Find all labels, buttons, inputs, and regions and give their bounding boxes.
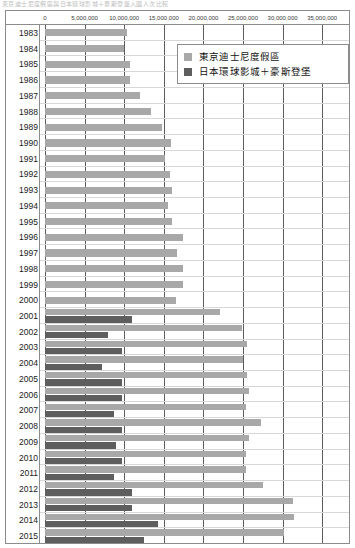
year-axis-label: 1987: [6, 92, 38, 101]
bar-tokyo-disney-resort: [45, 341, 247, 347]
bar-usj-huis-ten-bosch: [45, 332, 108, 338]
row-separator: [40, 480, 349, 481]
year-axis-label: 2008: [6, 422, 38, 431]
bar-usj-huis-ten-bosch: [45, 411, 114, 417]
bar-tokyo-disney-resort: [45, 297, 176, 304]
year-axis-label: 1994: [6, 202, 38, 211]
year-axis-label: 2003: [6, 343, 38, 352]
bar-usj-huis-ten-bosch: [45, 427, 122, 433]
legend-item-usj_huis_ten_bosch: 日本環球影城＋豪斯登堡: [184, 64, 342, 79]
legend-item-tokyo_disney_resort: 東京迪士尼度假區: [184, 49, 342, 64]
bar-usj-huis-ten-bosch: [45, 521, 158, 527]
bar-usj-huis-ten-bosch: [45, 395, 122, 401]
row-separator: [40, 339, 349, 340]
bar-tokyo-disney-resort: [45, 498, 293, 504]
bar-tokyo-disney-resort: [45, 281, 183, 288]
bar-tokyo-disney-resort: [45, 309, 220, 315]
bar-usj-huis-ten-bosch: [45, 442, 116, 448]
year-axis-label: 1990: [6, 139, 38, 148]
bar-tokyo-disney-resort: [45, 388, 249, 394]
bar-usj-huis-ten-bosch: [45, 316, 132, 322]
x-axis-tick-label: 35,000,000: [307, 13, 337, 23]
bar-usj-huis-ten-bosch: [45, 505, 132, 511]
year-axis-label: 1988: [6, 108, 38, 117]
bar-tokyo-disney-resort: [45, 325, 242, 331]
bar-tokyo-disney-resort: [45, 92, 140, 99]
row-separator: [40, 118, 349, 119]
year-axis-label: 1992: [6, 170, 38, 179]
legend-label: 日本環球影城＋豪斯登堡: [199, 67, 311, 77]
row-separator: [40, 103, 349, 104]
year-axis-column: 1983198419851986198719881989199019911992…: [6, 25, 40, 543]
year-axis-label: 2004: [6, 359, 38, 368]
row-separator: [40, 307, 349, 308]
bar-usj-huis-ten-bosch: [45, 537, 144, 543]
bar-tokyo-disney-resort: [45, 451, 246, 457]
bar-usj-huis-ten-bosch: [45, 364, 102, 370]
year-axis-label: 2002: [6, 328, 38, 337]
bar-tokyo-disney-resort: [45, 61, 130, 68]
bar-tokyo-disney-resort: [45, 234, 183, 241]
chart-frame: 05,000,00010,000,00015,000,00020,000,000…: [5, 10, 350, 544]
row-separator: [40, 449, 349, 450]
year-axis-label: 1996: [6, 233, 38, 242]
legend-label: 東京迪士尼度假區: [199, 52, 281, 62]
row-separator: [40, 386, 349, 387]
year-axis-label: 1985: [6, 60, 38, 69]
bar-tokyo-disney-resort: [45, 435, 249, 441]
x-axis-tick-label: 30,000,000: [268, 13, 298, 23]
legend-swatch-icon: [184, 53, 192, 61]
bar-usj-huis-ten-bosch: [45, 379, 122, 385]
year-axis-label: 2010: [6, 454, 38, 463]
year-axis-label: 2009: [6, 438, 38, 447]
bar-tokyo-disney-resort: [45, 202, 168, 209]
year-axis-label: 1991: [6, 155, 38, 164]
year-axis-label: 2014: [6, 516, 38, 525]
row-separator: [40, 213, 349, 214]
bar-tokyo-disney-resort: [45, 265, 183, 272]
bar-tokyo-disney-resort: [45, 356, 243, 362]
bar-tokyo-disney-resort: [45, 482, 263, 488]
row-separator: [40, 291, 349, 292]
row-separator: [40, 87, 349, 88]
row-separator: [40, 417, 349, 418]
row-separator: [40, 323, 349, 324]
row-separator: [40, 181, 349, 182]
year-axis-label: 2001: [6, 312, 38, 321]
bar-tokyo-disney-resort: [45, 404, 246, 410]
bar-usj-huis-ten-bosch: [45, 458, 122, 464]
bar-tokyo-disney-resort: [45, 218, 172, 225]
row-separator: [40, 228, 349, 229]
bar-usj-huis-ten-bosch: [45, 489, 132, 495]
bar-tokyo-disney-resort: [45, 108, 151, 115]
row-separator: [40, 244, 349, 245]
chart-legend: 東京迪士尼度假區日本環球影城＋豪斯登堡: [177, 44, 349, 84]
x-axis-tick-label: 15,000,000: [149, 13, 179, 23]
year-axis-label: 2015: [6, 532, 38, 541]
row-separator: [40, 197, 349, 198]
bar-tokyo-disney-resort: [45, 529, 284, 535]
row-separator: [40, 260, 349, 261]
chart-page: 東京迪士尼度假區與日本環球影城＋豪斯登堡入園人次比較 05,000,00010,…: [0, 0, 355, 548]
year-axis-label: 1998: [6, 265, 38, 274]
bar-tokyo-disney-resort: [45, 171, 170, 178]
year-axis-label: 1984: [6, 45, 38, 54]
plot-body: 1983198419851986198719881989199019911992…: [6, 25, 349, 543]
plot-area: [40, 25, 349, 543]
x-axis-tick-label: 0: [43, 13, 46, 23]
x-axis-tick-label: 5,000,000: [71, 13, 98, 23]
bar-tokyo-disney-resort: [45, 139, 171, 146]
row-separator: [40, 166, 349, 167]
year-axis-label: 2007: [6, 406, 38, 415]
row-separator: [40, 276, 349, 277]
bar-tokyo-disney-resort: [45, 29, 127, 36]
bar-tokyo-disney-resort: [45, 76, 130, 83]
row-separator: [40, 527, 349, 528]
year-axis-label: 2000: [6, 296, 38, 305]
row-separator: [40, 496, 349, 497]
x-axis-tick-label: 25,000,000: [228, 13, 258, 23]
cropped-caption-text: 東京迪士尼度假區與日本環球影城＋豪斯登堡入園人次比較: [0, 0, 355, 9]
year-axis-label: 1995: [6, 218, 38, 227]
bar-tokyo-disney-resort: [45, 249, 177, 256]
year-axis-label: 1989: [6, 123, 38, 132]
